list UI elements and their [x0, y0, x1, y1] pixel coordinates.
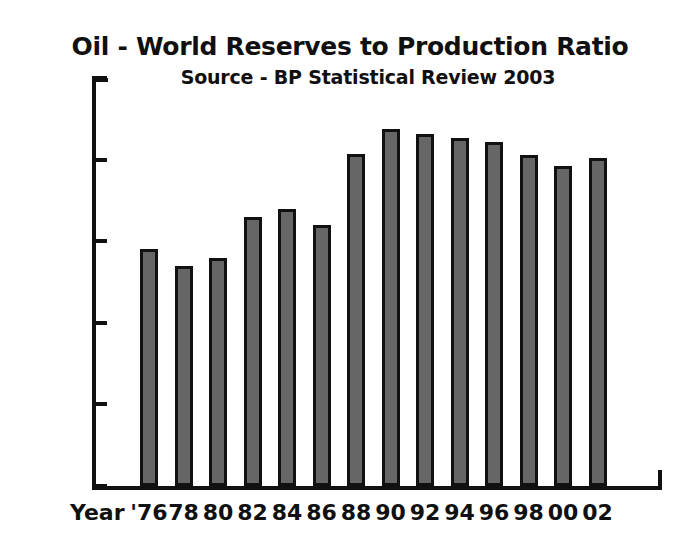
bar — [554, 166, 572, 486]
bar — [589, 158, 607, 486]
plot-area — [92, 78, 662, 490]
bar — [416, 134, 434, 487]
chart-title: Oil - World Reserves to Production Ratio — [0, 32, 700, 61]
bar — [209, 258, 227, 486]
bar — [451, 138, 469, 486]
bar — [175, 266, 193, 486]
bar — [347, 154, 365, 486]
bar-chart: Oil - World Reserves to Production Ratio… — [0, 0, 700, 555]
bar — [382, 129, 400, 486]
bar — [244, 217, 262, 486]
bar — [140, 249, 158, 486]
bar — [313, 225, 331, 486]
bar — [520, 155, 538, 486]
x-axis-tick-label: 02 — [575, 500, 621, 525]
bar — [278, 209, 296, 486]
x-axis-title: Year — [70, 500, 125, 525]
bar — [485, 142, 503, 486]
bars-group — [92, 78, 662, 490]
x-axis-tick-labels: Year '7678808284868890929496980002 — [0, 500, 700, 540]
